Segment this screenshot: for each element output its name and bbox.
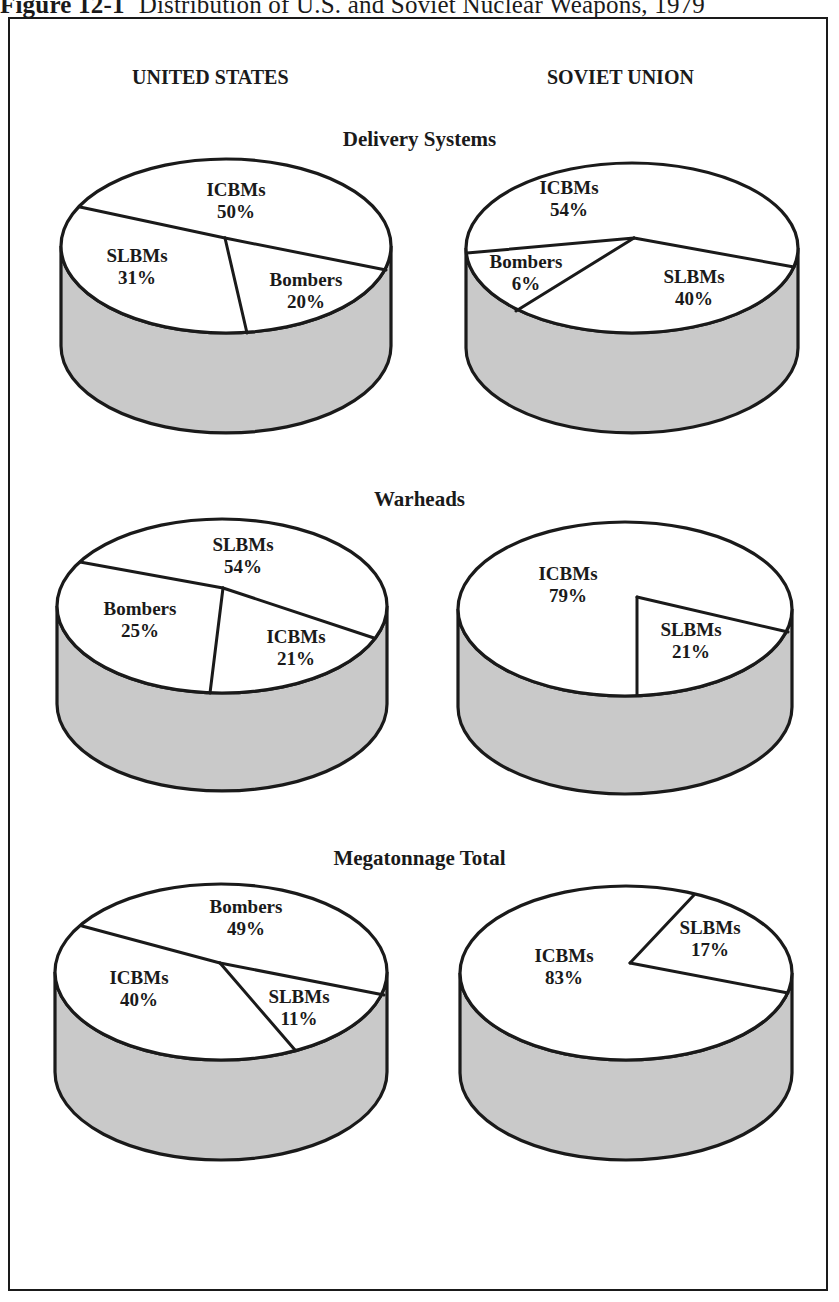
slice-label-value: 17% (691, 939, 729, 960)
slice-label-name: SLBMs (663, 266, 724, 287)
slice-label-name: Bombers (104, 598, 177, 619)
ussr-delivery-pie: ICBMs54%Bombers6%SLBMs40% (466, 163, 798, 433)
slice-label-value: 31% (118, 267, 156, 288)
slice-label-value: 83% (545, 967, 583, 988)
us-delivery-pie: ICBMs50%SLBMs31%Bombers20% (61, 159, 391, 433)
slice-label-name: ICBMs (538, 563, 597, 584)
slice-label-value: 40% (675, 288, 713, 309)
slice-label-value: 25% (121, 620, 159, 641)
slice-label-name: ICBMs (534, 945, 593, 966)
slice-label-value: 50% (217, 201, 255, 222)
slice-label-name: ICBMs (266, 626, 325, 647)
slice-label-name: Bombers (270, 269, 343, 290)
us-warheads-pie: SLBMs54%Bombers25%ICBMs21% (57, 519, 387, 791)
pie-charts-canvas: ICBMs50%SLBMs31%Bombers20%ICBMs54%Bomber… (0, 0, 839, 1302)
slice-label-name: ICBMs (206, 179, 265, 200)
slice-label-value: 54% (550, 199, 588, 220)
slice-label-value: 11% (281, 1008, 318, 1029)
us-megatonnage-pie: Bombers49%ICBMs40%SLBMs11% (55, 884, 387, 1160)
slice-label-name: SLBMs (212, 534, 273, 555)
slice-label-name: Bombers (490, 251, 563, 272)
slice-label-name: Bombers (210, 896, 283, 917)
ussr-megatonnage-pie: ICBMs83%SLBMs17% (460, 886, 792, 1160)
slice-label-value: 21% (672, 641, 710, 662)
slice-label-value: 20% (287, 291, 325, 312)
slice-label-name: SLBMs (268, 986, 329, 1007)
slice-label-value: 49% (227, 918, 265, 939)
ussr-warheads-pie: ICBMs79%SLBMs21% (458, 522, 792, 794)
slice-label-name: SLBMs (106, 245, 167, 266)
pie-top-face (460, 886, 792, 1060)
slice-label-value: 6% (512, 273, 541, 294)
slice-label-value: 21% (277, 648, 315, 669)
slice-label-name: ICBMs (109, 967, 168, 988)
slice-label-value: 54% (224, 556, 262, 577)
slice-label-name: SLBMs (679, 917, 740, 938)
slice-label-name: SLBMs (660, 619, 721, 640)
slice-label-value: 40% (120, 989, 158, 1010)
slice-label-value: 79% (549, 585, 587, 606)
slice-label-name: ICBMs (539, 177, 598, 198)
pie-top-face (458, 522, 792, 696)
